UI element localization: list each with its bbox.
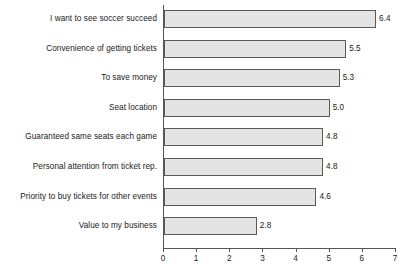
category-label: Seat location (109, 98, 157, 118)
bar-value-label: 5.3 (343, 68, 354, 88)
x-axis-tick (262, 248, 263, 252)
bar-row: To save money5.3 (0, 68, 401, 88)
x-axis-tick-label: 3 (252, 254, 272, 263)
category-label: Value to my business (79, 216, 157, 236)
bar-row: Value to my business2.8 (0, 216, 401, 236)
category-label: Priority to buy tickets for other events (20, 187, 157, 207)
x-axis-tick (229, 248, 230, 252)
bar-value-label: 2.8 (260, 216, 271, 236)
bar-row: Convenience of getting tickets5.5 (0, 39, 401, 59)
bar-chart: I want to see soccer succeed6.4Convenien… (0, 0, 401, 273)
bar (164, 10, 376, 28)
bar (164, 128, 323, 146)
bar-value-label: 5.0 (333, 98, 344, 118)
x-axis-tick (362, 248, 363, 252)
bar (164, 40, 346, 58)
x-axis-tick-label: 4 (286, 254, 306, 263)
bar (164, 99, 330, 117)
bar-row: Priority to buy tickets for other events… (0, 187, 401, 207)
bar-row: Personal attention from ticket rep.4.8 (0, 157, 401, 177)
bar (164, 158, 323, 176)
bar (164, 217, 257, 235)
bar-row: I want to see soccer succeed6.4 (0, 9, 401, 29)
x-axis-tick (395, 248, 396, 252)
category-label: Guaranteed same seats each game (25, 127, 157, 147)
bar-row: Seat location5.0 (0, 98, 401, 118)
bar-value-label: 6.4 (379, 9, 390, 29)
x-axis-tick-label: 7 (385, 254, 401, 263)
bar-value-label: 4.6 (319, 187, 330, 207)
bar-row: Guaranteed same seats each game4.8 (0, 127, 401, 147)
category-label: To save money (101, 68, 157, 88)
x-axis-tick (163, 248, 164, 252)
plot-area: I want to see soccer succeed6.4Convenien… (0, 0, 401, 273)
bar-value-label: 4.8 (326, 127, 337, 147)
x-axis-tick-label: 2 (219, 254, 239, 263)
x-axis-tick-label: 6 (352, 254, 372, 263)
value-axis-line (163, 248, 395, 249)
bar (164, 69, 340, 87)
x-axis-tick-label: 5 (319, 254, 339, 263)
category-label: Personal attention from ticket rep. (33, 157, 157, 177)
category-label: I want to see soccer succeed (50, 9, 157, 29)
category-label: Convenience of getting tickets (46, 39, 157, 59)
bar (164, 188, 316, 206)
x-axis-tick (196, 248, 197, 252)
x-axis-tick (329, 248, 330, 252)
bar-value-label: 5.5 (349, 39, 360, 59)
x-axis-tick (296, 248, 297, 252)
x-axis-tick-label: 1 (186, 254, 206, 263)
bar-value-label: 4.8 (326, 157, 337, 177)
x-axis-tick-label: 0 (153, 254, 173, 263)
